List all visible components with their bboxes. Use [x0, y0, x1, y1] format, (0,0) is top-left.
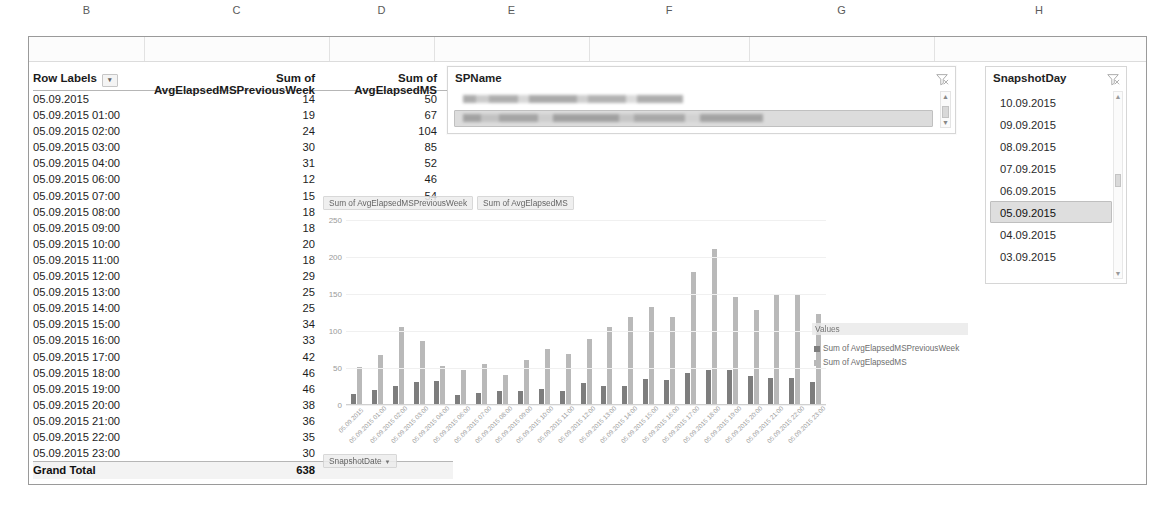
chart-bar[interactable] — [706, 370, 711, 404]
legend-entry-prev-week[interactable]: Sum of AvgElapsedMSPreviousWeek — [814, 344, 972, 353]
chart-bar-group[interactable] — [492, 220, 513, 404]
chart-bar[interactable] — [748, 376, 753, 404]
col-header-prev-week[interactable]: Sum of AvgElapsedMSPreviousWeek — [125, 72, 319, 88]
chart-bar-group[interactable] — [722, 220, 743, 404]
chart-bar[interactable] — [727, 370, 732, 404]
chart-bar[interactable] — [372, 390, 377, 404]
chart-bar[interactable] — [378, 355, 383, 404]
scroll-up-arrow-icon[interactable]: ▲ — [941, 92, 950, 101]
column-header-b[interactable]: B — [29, 4, 144, 16]
column-header-d[interactable]: D — [329, 4, 434, 16]
chart-bar-group[interactable] — [430, 220, 451, 404]
chart-bar[interactable] — [581, 383, 586, 404]
chart-bar[interactable] — [685, 373, 690, 404]
chart-bar[interactable] — [414, 382, 419, 404]
chart-bar[interactable] — [357, 367, 362, 404]
chart-bar-group[interactable] — [346, 220, 367, 404]
chart-bar[interactable] — [560, 391, 565, 404]
slicer-item-snapshotday[interactable]: 05.09.2015 — [990, 201, 1112, 223]
slicer-item-spname[interactable] — [454, 91, 933, 108]
chart-bar[interactable] — [393, 386, 398, 404]
chart-axis-field-button[interactable]: SnapshotDate▼ — [323, 454, 397, 468]
chart-bar[interactable] — [434, 381, 439, 404]
slicer-snapshotday-scrollbar[interactable]: ▲ ▼ — [1113, 91, 1123, 279]
slicer-item-spname[interactable] — [454, 110, 933, 127]
chart-bar[interactable] — [789, 378, 794, 404]
column-header-g[interactable]: G — [749, 4, 934, 16]
slicer-spname[interactable]: SPName ▲ ▼ — [447, 66, 956, 134]
chart-bar[interactable] — [420, 341, 425, 404]
scroll-up-arrow-icon[interactable]: ▲ — [1114, 92, 1122, 101]
chart-bar[interactable] — [649, 307, 654, 404]
chart-bar-group[interactable] — [617, 220, 638, 404]
chart-bar[interactable] — [461, 370, 466, 404]
chart-bar[interactable] — [587, 339, 592, 404]
chart-bar[interactable] — [712, 249, 717, 404]
chart-bar-group[interactable] — [450, 220, 471, 404]
chart-bar-group[interactable] — [513, 220, 534, 404]
chart-bar-group[interactable] — [555, 220, 576, 404]
filter-dropdown-icon[interactable]: ▾ — [102, 74, 118, 87]
chart-bar-group[interactable] — [784, 220, 805, 404]
table-row[interactable]: 05.09.2015 03:003085 — [33, 139, 453, 155]
chart-bar[interactable] — [524, 360, 529, 404]
slicer-spname-scrollbar[interactable]: ▲ ▼ — [940, 91, 951, 128]
scroll-down-arrow-icon[interactable]: ▼ — [941, 118, 950, 127]
chart-bar[interactable] — [440, 366, 445, 404]
clear-filter-icon[interactable] — [1106, 72, 1120, 86]
scrollbar-thumb[interactable] — [942, 106, 949, 118]
chart-bar-group[interactable] — [659, 220, 680, 404]
chart-bar[interactable] — [518, 391, 523, 404]
chart-bar-group[interactable] — [367, 220, 388, 404]
slicer-item-snapshotday[interactable]: 04.09.2015 — [990, 223, 1112, 245]
chart-bar[interactable] — [810, 382, 815, 404]
chart-field-button-current[interactable]: Sum of AvgElapsedMS — [477, 196, 574, 210]
chart-bar-group[interactable] — [743, 220, 764, 404]
col-header-current[interactable]: Sum of AvgElapsedMS — [319, 72, 441, 88]
row-labels-header[interactable]: Row Labels ▾ — [33, 72, 125, 88]
table-row[interactable]: 05.09.2015 04:003152 — [33, 155, 453, 171]
chart-bar[interactable] — [351, 394, 356, 404]
slicer-item-snapshotday[interactable]: 06.09.2015 — [990, 179, 1112, 201]
slicer-item-snapshotday[interactable]: 03.09.2015 — [990, 245, 1112, 267]
legend-entry-current[interactable]: Sum of AvgElapsedMS — [814, 358, 972, 367]
table-row[interactable]: 05.09.2015 02:0024104 — [33, 123, 453, 139]
chart-bar[interactable] — [545, 349, 550, 404]
chart-bar[interactable] — [482, 364, 487, 404]
column-header-h[interactable]: H — [934, 4, 1144, 16]
table-row[interactable]: 05.09.2015 01:001967 — [33, 107, 453, 123]
chart-bar[interactable] — [607, 327, 612, 404]
chart-field-button-prev-week[interactable]: Sum of AvgElapsedMSPreviousWeek — [323, 196, 473, 210]
slicer-item-snapshotday[interactable]: 09.09.2015 — [990, 113, 1112, 135]
chart-bar-group[interactable] — [638, 220, 659, 404]
clear-filter-icon[interactable] — [935, 72, 949, 86]
chart-bar[interactable] — [566, 354, 571, 404]
chart-bar[interactable] — [754, 310, 759, 404]
scroll-down-arrow-icon[interactable]: ▼ — [1114, 269, 1122, 278]
column-header-c[interactable]: C — [144, 4, 329, 16]
chart-bar[interactable] — [664, 380, 669, 404]
chart-bar[interactable] — [476, 393, 481, 404]
chart-bar[interactable] — [691, 272, 696, 404]
table-row[interactable]: 05.09.2015 06:001246 — [33, 171, 453, 187]
chart-bar-group[interactable] — [409, 220, 430, 404]
chart-bar[interactable] — [622, 386, 627, 404]
scrollbar-thumb[interactable] — [1115, 174, 1121, 187]
chart-bar[interactable] — [768, 378, 773, 404]
slicer-snapshotday[interactable]: SnapshotDay 10.09.201509.09.201508.09.20… — [985, 66, 1127, 284]
slicer-item-snapshotday[interactable]: 07.09.2015 — [990, 157, 1112, 179]
chart-bar-group[interactable] — [805, 220, 826, 404]
chart-bar[interactable] — [601, 386, 606, 404]
chart-bar[interactable] — [503, 375, 508, 404]
chart-bar[interactable] — [733, 297, 738, 404]
table-row[interactable]: 05.09.20151450 — [33, 91, 453, 107]
chart-bar[interactable] — [774, 294, 779, 404]
chart-bar-group[interactable] — [764, 220, 785, 404]
chart-bar-group[interactable] — [680, 220, 701, 404]
chart-bar[interactable] — [795, 295, 800, 404]
column-header-e[interactable]: E — [434, 4, 589, 16]
slicer-item-snapshotday[interactable]: 10.09.2015 — [990, 91, 1112, 113]
chart-bar-group[interactable] — [576, 220, 597, 404]
column-header-f[interactable]: F — [589, 4, 749, 16]
chart-bar[interactable] — [539, 389, 544, 404]
